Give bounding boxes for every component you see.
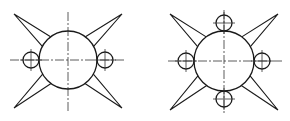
diagram-canvas [0,0,290,121]
technical-drawing [0,0,290,121]
